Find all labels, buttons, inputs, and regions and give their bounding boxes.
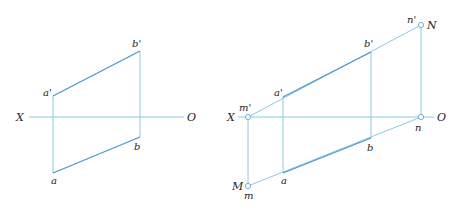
point-m-marker — [245, 183, 250, 188]
left-figure: X O a' b' b a — [15, 38, 196, 186]
right-top-view-ab — [283, 138, 371, 173]
left-label-o: O — [187, 111, 196, 124]
right-figure: X O m' n n' N M m a' b' b a — [226, 14, 446, 201]
right-top-line-mn — [248, 117, 421, 186]
left-front-view-ab — [53, 51, 140, 96]
right-label-b: b — [367, 142, 373, 153]
right-label-m: m — [244, 190, 253, 201]
left-label-b: b — [134, 141, 140, 152]
point-n-marker — [418, 114, 423, 119]
right-label-N: N — [426, 19, 437, 32]
right-label-M: M — [231, 180, 244, 193]
right-label-n-prime: n' — [407, 14, 416, 25]
point-n-prime-marker — [418, 22, 423, 27]
left-label-a: a — [51, 175, 57, 186]
right-label-o: O — [437, 111, 446, 124]
right-label-n: n — [415, 122, 421, 133]
left-label-x: X — [15, 111, 25, 124]
left-label-a-prime: a' — [43, 87, 52, 98]
projection-diagram: X O a' b' b a X O m' n n' N M m a' b' b … — [0, 0, 456, 211]
right-label-a: a — [281, 175, 287, 186]
right-label-x: X — [226, 111, 236, 124]
point-m-prime-marker — [245, 114, 250, 119]
left-label-b-prime: b' — [132, 38, 141, 49]
right-label-a-prime: a' — [274, 87, 283, 98]
right-front-view-ab — [283, 52, 371, 97]
right-label-m-prime: m' — [239, 102, 251, 113]
left-top-view-ab — [53, 137, 140, 173]
right-label-b-prime: b' — [364, 38, 373, 49]
